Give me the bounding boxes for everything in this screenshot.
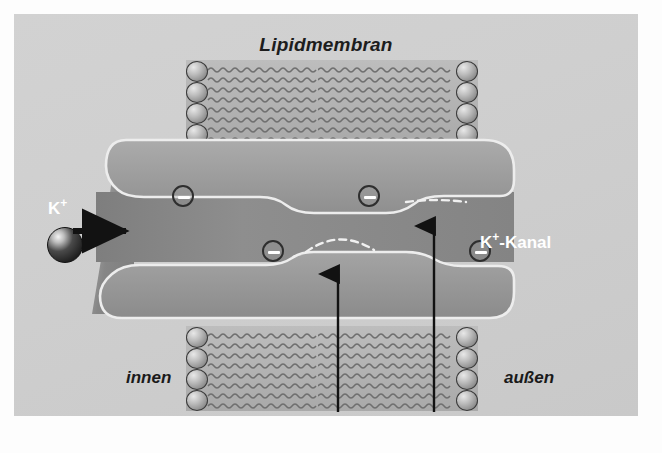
channel-label: K+-Kanal xyxy=(480,230,551,253)
lipid-head-group-column xyxy=(456,326,478,411)
lipid-head-group-column xyxy=(186,326,208,411)
charge-lower-left xyxy=(262,240,284,262)
channel-pore-lumen xyxy=(96,192,514,262)
potassium-ion xyxy=(47,227,83,263)
potassium-ion-label: K+ xyxy=(48,196,67,219)
lipid-head-icon xyxy=(456,82,478,103)
bilayer-bottom-left xyxy=(186,326,318,411)
label-inside: innen xyxy=(126,368,171,388)
charge-upper-right xyxy=(358,185,380,207)
arc-upper-pore-dashed xyxy=(406,200,466,202)
figure-root: Lipidmembran xyxy=(0,0,662,453)
lipid-head-icon xyxy=(186,348,208,369)
potassium-ion-charge-sup: + xyxy=(60,196,67,210)
lipid-head-icon xyxy=(186,369,208,390)
diagram-panel: Lipidmembran xyxy=(14,14,638,416)
lipid-tails xyxy=(318,60,478,145)
label-outside: außen xyxy=(504,368,554,388)
lipid-head-group-column xyxy=(186,60,208,145)
lipid-head-icon xyxy=(186,82,208,103)
protein-upper-lobe xyxy=(106,140,514,213)
lipid-head-icon xyxy=(456,390,478,411)
lipid-tail-waves xyxy=(318,60,478,145)
bilayer-bottom-right xyxy=(318,326,478,411)
lipid-head-group-column xyxy=(456,60,478,145)
lipid-head-icon xyxy=(456,124,478,145)
lipid-head-icon xyxy=(186,327,208,348)
lipid-head-icon xyxy=(456,327,478,348)
lipid-head-icon xyxy=(456,61,478,82)
lipid-head-icon xyxy=(186,124,208,145)
bilayer-top-left xyxy=(186,60,318,145)
channel-label-suffix: -Kanal xyxy=(499,233,551,252)
lipid-head-icon xyxy=(456,103,478,124)
lipid-head-icon xyxy=(456,348,478,369)
lipid-tails xyxy=(318,326,478,411)
lipid-head-icon xyxy=(186,61,208,82)
lipid-head-icon xyxy=(186,103,208,124)
lipid-tail-waves xyxy=(318,326,478,411)
protein-left-shadow xyxy=(74,184,134,314)
arc-lower-pore-dashed xyxy=(306,239,374,252)
protein-lower-lobe xyxy=(100,252,514,318)
channel-label-ion: K xyxy=(480,233,492,252)
lipid-head-icon xyxy=(456,369,478,390)
page-title: Lipidmembran xyxy=(14,34,638,56)
lipid-head-icon xyxy=(186,390,208,411)
potassium-ion-label-text: K xyxy=(48,199,60,218)
bilayer-top-right xyxy=(318,60,478,145)
charge-upper-left xyxy=(172,185,194,207)
